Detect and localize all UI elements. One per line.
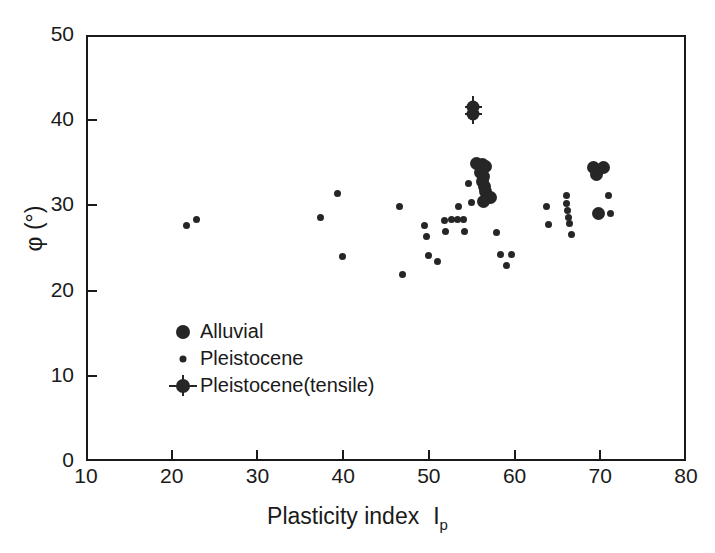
data-point-pleistocene	[545, 221, 552, 228]
data-point-pleistocene	[460, 216, 467, 223]
scatter-chart: 01020304050 1020304050607080 Alluvial Pl…	[0, 0, 715, 553]
chart-legend: Alluvial Pleistocene Pleistocene(tensile…	[166, 318, 375, 399]
x-tick-label: 10	[56, 464, 116, 488]
y-tick-mark	[86, 290, 97, 292]
data-point-pleistocene	[442, 228, 449, 235]
data-point-pleistocene	[434, 258, 441, 265]
y-tick-mark	[86, 204, 97, 206]
data-point-pleistocene	[497, 251, 504, 258]
data-point-pleistocene	[543, 203, 550, 210]
circle-with-error-bars-icon	[166, 372, 200, 399]
data-point-pleistocene	[193, 216, 200, 223]
x-axis-title: Plasticity indexIp	[0, 503, 715, 533]
x-tick-label: 80	[656, 464, 715, 488]
y-tick-mark	[86, 375, 97, 377]
y-tick-label: 10	[22, 363, 74, 387]
y-tick-mark	[86, 119, 97, 121]
y-tick-label: 40	[22, 107, 74, 131]
data-point-pleistocene	[605, 192, 612, 199]
data-point-pleistocene	[425, 252, 432, 259]
data-point-pleistocene	[465, 180, 472, 187]
data-point-pleistocene	[566, 220, 573, 227]
data-point-pleistocene	[441, 217, 448, 224]
data-point-pleistocene-tensile	[465, 104, 482, 124]
x-tick-mark	[171, 450, 173, 461]
x-tick-label: 30	[227, 464, 287, 488]
x-tick-mark	[342, 450, 344, 461]
x-tick-label: 20	[142, 464, 202, 488]
small-filled-circle-icon	[166, 345, 200, 372]
x-tick-label: 50	[399, 464, 459, 488]
legend-label-pleistocene-tensile: Pleistocene(tensile)	[200, 374, 375, 397]
x-tick-mark	[428, 450, 430, 461]
legend-item-pleistocene-tensile: Pleistocene(tensile)	[166, 372, 375, 399]
data-point-pleistocene	[508, 251, 515, 258]
data-point-pleistocene	[563, 192, 570, 199]
data-point-pleistocene	[503, 262, 510, 269]
x-tick-mark	[514, 450, 516, 461]
x-tick-mark	[256, 450, 258, 461]
data-point-pleistocene	[399, 271, 406, 278]
x-axis-title-text: Plasticity index	[267, 503, 419, 529]
y-axis-title: φ (°)	[21, 169, 48, 289]
legend-label-pleistocene: Pleistocene	[200, 347, 303, 370]
data-point-pleistocene	[396, 203, 403, 210]
data-point-pleistocene	[607, 210, 614, 217]
large-filled-circle-icon	[166, 318, 200, 345]
legend-label-alluvial: Alluvial	[200, 320, 263, 343]
x-tick-label: 60	[485, 464, 545, 488]
legend-item-pleistocene: Pleistocene	[166, 345, 375, 372]
x-tick-mark	[599, 450, 601, 461]
data-point-pleistocene	[339, 253, 346, 260]
legend-item-alluvial: Alluvial	[166, 318, 375, 345]
x-tick-label: 70	[570, 464, 630, 488]
x-axis-title-subscript: p	[440, 516, 448, 533]
data-point-pleistocene	[568, 231, 575, 238]
data-point-pleistocene	[334, 190, 341, 197]
y-tick-label: 50	[22, 22, 74, 46]
x-tick-label: 40	[313, 464, 373, 488]
data-point-pleistocene	[455, 203, 462, 210]
